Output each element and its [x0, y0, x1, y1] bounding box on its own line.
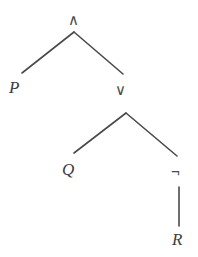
- edge-and-to-p: [22, 32, 74, 73]
- node-conjunction: ∧: [68, 12, 79, 27]
- parse-tree-diagram: ∧ P ∨ Q ¬ R: [0, 0, 198, 257]
- edge-or-to-q: [74, 113, 126, 153]
- node-negation: ¬: [171, 164, 180, 179]
- node-disjunction: ∨: [115, 82, 126, 97]
- edge-and-to-or: [74, 32, 123, 74]
- node-proposition-q: Q: [62, 161, 74, 178]
- edge-or-to-not: [126, 113, 177, 156]
- node-proposition-r: R: [172, 231, 182, 248]
- node-proposition-p: P: [9, 79, 19, 96]
- tree-edges-layer: [0, 0, 198, 257]
